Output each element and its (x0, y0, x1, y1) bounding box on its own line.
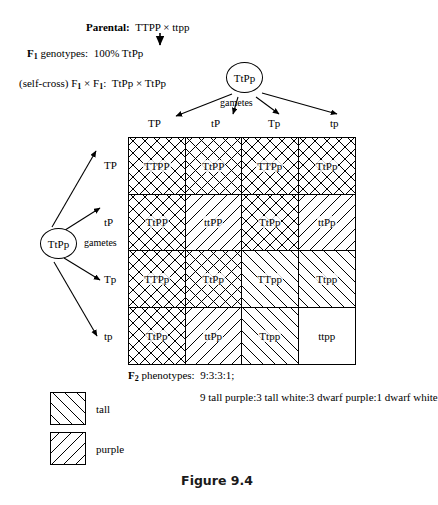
top-parent-genotype: TtPp (234, 72, 255, 84)
left-gamete-arrow-tP (62, 208, 100, 232)
f2-ratio-description: 9 tall purple:3 tall white:3 dwarf purpl… (200, 392, 438, 403)
row-gamete-label-4: tp (104, 331, 113, 342)
legend-label-purple: purple (96, 444, 124, 455)
punnett-cell-genotype: ttpp (317, 330, 336, 342)
punnett-cell: TtPp (299, 138, 356, 195)
punnett-cell-genotype: ttPp (203, 330, 223, 342)
punnett-cell: TTPp (242, 138, 299, 195)
f1-genotypes-line: F1 genotypes: 100% TtPp (27, 48, 143, 61)
selfcross-prefix: (self-cross) F (19, 77, 77, 89)
punnett-cell: TtPP (129, 195, 186, 252)
punnett-square-grid: TTPP TtPP TTPp TtPp TtPP ttPP TtPp ttPp … (128, 137, 356, 365)
top-gamete-arrow-Tp (256, 97, 279, 114)
f1-label-prefix: F (27, 47, 34, 59)
punnett-cell: ttPp (299, 195, 356, 252)
punnett-cell-genotype: TtPp (202, 273, 225, 285)
row-gamete-label-3: Tp (104, 274, 116, 285)
f2-phenotypes-line: F2 phenotypes: 9:3:3:1; (128, 370, 234, 383)
parental-label: Parental: (86, 21, 130, 33)
punnett-cell-genotype: TTPp (256, 160, 283, 172)
f2-label-suffix: phenotypes: (139, 369, 195, 381)
top-parent-gamete-circle: TtPp (226, 62, 263, 93)
punnett-cell: TTpp (242, 251, 299, 308)
punnett-cell-genotype: TtPp (315, 160, 338, 172)
left-gamete-arrow-TP (52, 151, 96, 227)
column-gamete-label-2: tP (211, 118, 220, 129)
selfcross-mid: × F (81, 77, 99, 89)
column-gamete-label-4: tp (330, 118, 339, 129)
f2-ratio-value: 9:3:3:1; (200, 369, 234, 381)
legend-label-tall: tall (96, 404, 110, 415)
punnett-cell: Ttpp (299, 251, 356, 308)
figure-caption: Figure 9.4 (0, 473, 434, 488)
punnett-cell-genotype: TtPP (145, 216, 169, 228)
punnett-cell-genotype: ttPP (203, 216, 223, 228)
punnett-cell: TtPp (186, 251, 243, 308)
punnett-cell: TtPP (186, 138, 243, 195)
parental-cross-line: Parental: TTPP × ttpp (86, 22, 189, 33)
punnett-cell-genotype: TTPp (143, 273, 170, 285)
punnett-cell-genotype: TTpp (257, 273, 283, 285)
f1-label-suffix: genotypes: (38, 47, 88, 59)
left-parent-gamete-circle: TtPp (40, 228, 77, 259)
f1-genotype-value: 100% TtPp (94, 47, 144, 59)
punnett-cell-genotype: TtPP (201, 160, 225, 172)
left-gamete-arrow-tp (54, 262, 97, 336)
self-cross-line: (self-cross) F1 × F1: TtPp × TtPp (19, 78, 166, 91)
legend-swatch-tall (50, 392, 86, 425)
punnett-cell: Ttpp (242, 308, 299, 365)
column-gamete-label-3: Tp (268, 118, 280, 129)
punnett-cell-genotype: TtPp (145, 330, 168, 342)
selfcross-colon: : (103, 77, 106, 89)
parental-cross-value: TTPP × ttpp (135, 21, 189, 33)
punnett-cell-genotype: TtPp (258, 216, 281, 228)
back-hatch-pattern-icon (50, 432, 86, 465)
top-gamete-arrow-tp (262, 93, 337, 114)
left-gamete-arrow-Tp (64, 258, 100, 280)
punnett-cell-genotype: TTPP (143, 160, 171, 172)
f2-label-prefix: F (128, 369, 135, 381)
punnett-cell: ttPp (186, 308, 243, 365)
punnett-cell-genotype: Ttpp (258, 330, 281, 342)
punnett-cell-genotype: ttPp (317, 216, 337, 228)
legend-swatch-purple (50, 432, 86, 465)
left-parent-genotype: TtPp (48, 238, 69, 250)
row-gamete-label-2: tP (104, 217, 113, 228)
left-gametes-label: gametes (84, 238, 117, 248)
punnett-cell: ttPP (186, 195, 243, 252)
row-gamete-label-1: TP (104, 160, 117, 171)
punnett-cell: TtPp (242, 195, 299, 252)
punnett-cell: TTPp (129, 251, 186, 308)
forward-hatch-pattern-icon (50, 392, 86, 425)
punnett-cell-genotype: Ttpp (315, 273, 338, 285)
selfcross-value: TtPp × TtPp (112, 77, 166, 89)
punnett-cell: ttpp (299, 308, 356, 365)
punnett-cell: TtPp (129, 308, 186, 365)
column-gamete-label-1: TP (148, 118, 161, 129)
top-gametes-label: gametes (220, 98, 253, 108)
punnett-cell: TTPP (129, 138, 186, 195)
